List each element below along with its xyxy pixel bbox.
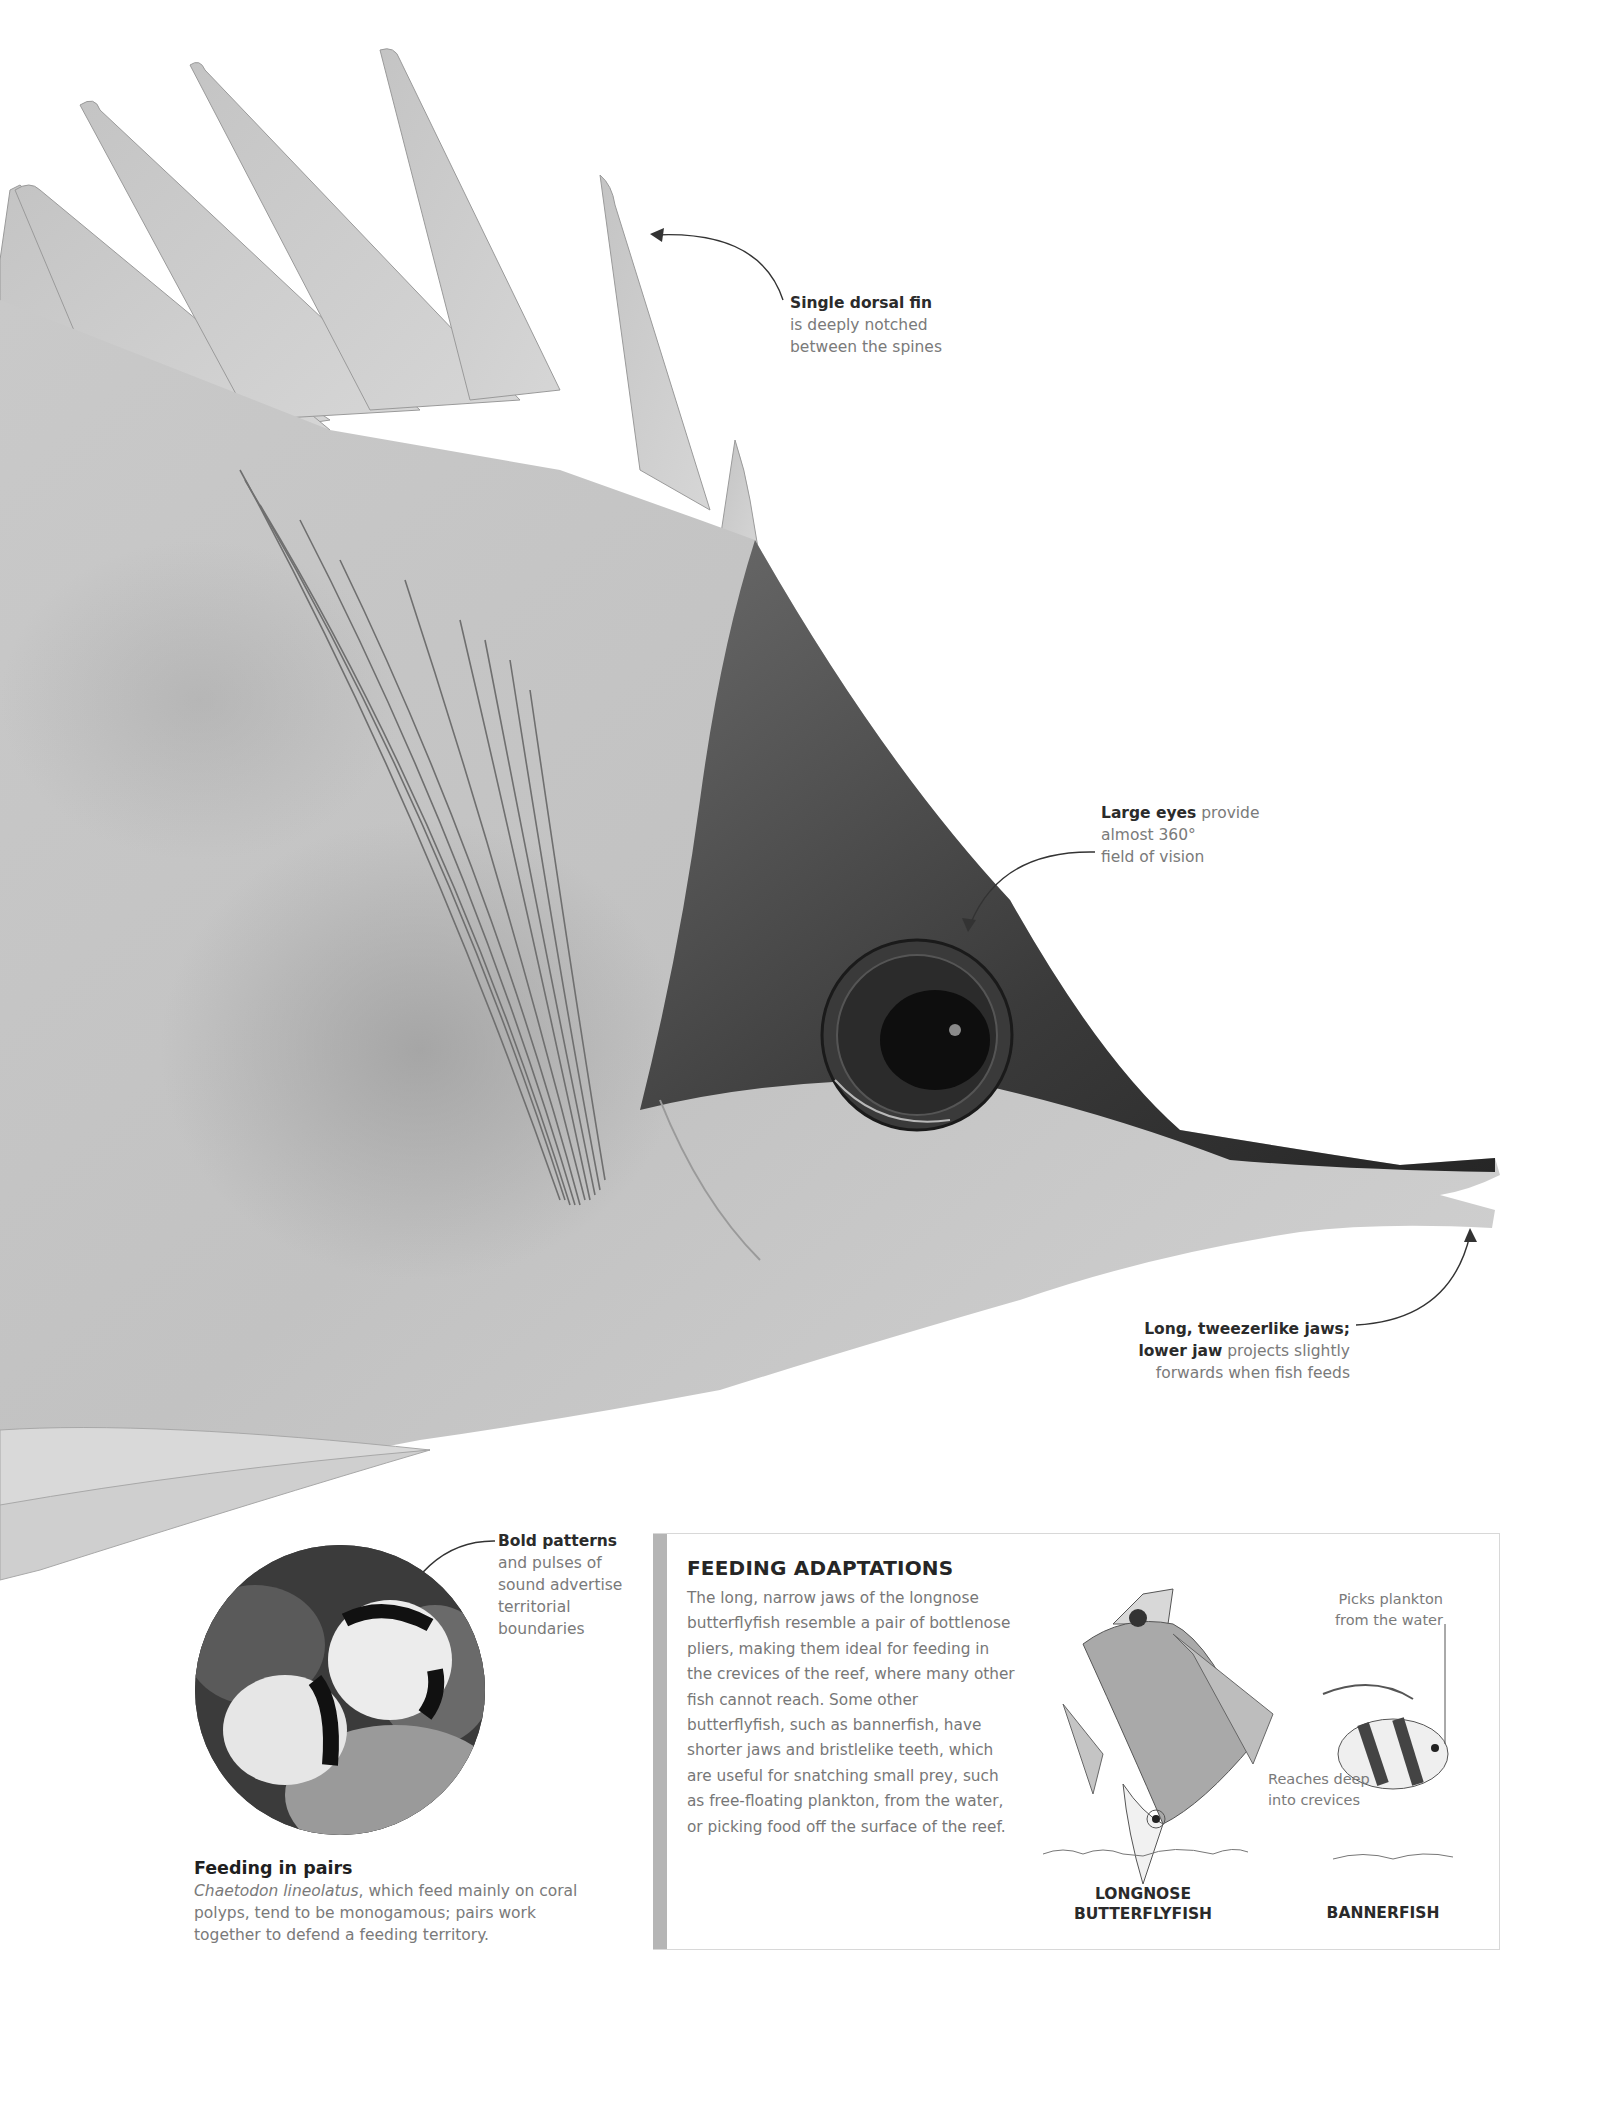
box-heading: FEEDING ADAPTATIONS [687,1556,953,1580]
callout-bold-line1: and pulses of [498,1552,648,1574]
caption-body: Chaetodon lineolatus, which feed mainly … [194,1880,594,1946]
callout-dorsal-line2: is deeply notched [790,314,1050,336]
box-accent-bar [653,1534,667,1949]
caption-title: Feeding in pairs [194,1856,594,1880]
label-longnose-line1: LONGNOSE [1043,1884,1243,1904]
note-reaches-deep: Reaches deep into crevices [1268,1769,1370,1811]
note-picks-plankton: Picks plankton from the water [1333,1589,1443,1631]
photo-caption: Feeding in pairs Chaetodon lineolatus, w… [194,1856,594,1946]
callout-bold-line3: territorial [498,1596,648,1618]
note-reaches-line1: Reaches deep [1268,1769,1370,1790]
label-longnose-line2: BUTTERFLYFISH [1043,1904,1243,1924]
callout-eyes-line2: almost 360° [1101,824,1341,846]
note-picks-line2: from the water [1333,1610,1443,1631]
callout-bold-patterns: Bold patterns and pulses of sound advert… [498,1530,648,1640]
callout-jaws-bold2: lower jaw [1138,1342,1222,1360]
label-bannerfish: BANNERFISH [1313,1903,1453,1923]
callout-large-eyes: Large eyes provide almost 360° field of … [1101,802,1341,868]
callout-bold-title: Bold patterns [498,1530,648,1552]
callout-dorsal-title: Single dorsal fin [790,292,1050,314]
bannerfish-diagram [1323,1624,1453,1859]
callout-bold-line2: sound advertise [498,1574,648,1596]
note-reaches-line2: into crevices [1268,1790,1370,1811]
callout-jaws: Long, tweezerlike jaws; lower jaw projec… [1060,1318,1350,1384]
callout-eyes-bold: Large eyes [1101,804,1196,822]
box-body-text: The long, narrow jaws of the longnose bu… [687,1586,1017,1840]
callout-eyes-line3: field of vision [1101,846,1341,868]
callout-jaws-projects: projects slightly [1227,1342,1350,1360]
callout-bold-line4: boundaries [498,1618,648,1640]
caption-species: Chaetodon lineolatus [194,1882,359,1900]
note-picks-line1: Picks plankton [1333,1589,1443,1610]
longnose-butterflyfish-diagram [1043,1589,1273,1884]
eye [822,940,1012,1130]
callout-eyes-provide: provide [1201,804,1259,822]
feeding-pairs-photo [195,1545,485,1835]
callout-dorsal-fin: Single dorsal fin is deeply notched betw… [790,292,1050,358]
label-longnose-butterflyfish: LONGNOSE BUTTERFLYFISH [1043,1884,1243,1924]
callout-jaws-line3: forwards when fish feeds [1060,1362,1350,1384]
callout-dorsal-line3: between the spines [790,336,1050,358]
dark-head-band [640,540,1495,1172]
callout-jaws-title: Long, tweezerlike jaws; [1060,1318,1350,1340]
feeding-adaptations-box: FEEDING ADAPTATIONS The long, narrow jaw… [653,1533,1500,1950]
